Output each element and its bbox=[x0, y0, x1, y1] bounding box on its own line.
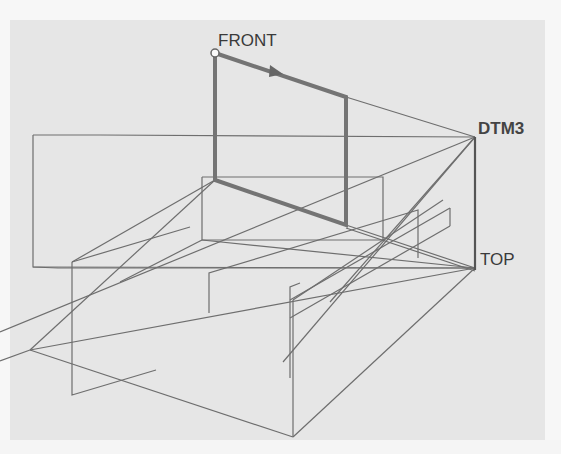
front-label[interactable]: FRONT bbox=[218, 32, 277, 49]
datum-wireframe bbox=[0, 0, 561, 454]
dtm3-label[interactable]: DTM3 bbox=[478, 120, 524, 137]
origin-circle-icon bbox=[211, 49, 219, 57]
large-datum-rect bbox=[33, 135, 475, 137]
front-datum-frame bbox=[215, 53, 346, 225]
page-footer-strip bbox=[0, 440, 561, 454]
top-label[interactable]: TOP bbox=[480, 251, 515, 268]
